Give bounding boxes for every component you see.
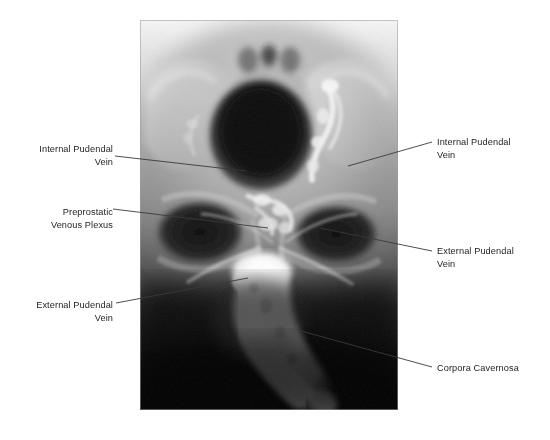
- label-internal-pudendal-vein-right: Internal Pudendal Vein: [437, 136, 537, 161]
- label-corpora-cavernosa: Corpora Cavernosa: [437, 362, 547, 375]
- film-grain: [140, 20, 398, 410]
- radiograph-canvas: [140, 20, 398, 410]
- label-external-pudendal-vein-left: External Pudendal Vein: [18, 299, 113, 324]
- annotated-radiograph-figure: Internal Pudendal Vein Preprostatic Veno…: [0, 0, 550, 440]
- label-internal-pudendal-vein-left: Internal Pudendal Vein: [28, 143, 113, 168]
- radiograph-image: [140, 20, 398, 410]
- label-preprostatic-venous-plexus: Preprostatic Venous Plexus: [28, 206, 113, 231]
- label-external-pudendal-vein-right: External Pudendal Vein: [437, 245, 537, 270]
